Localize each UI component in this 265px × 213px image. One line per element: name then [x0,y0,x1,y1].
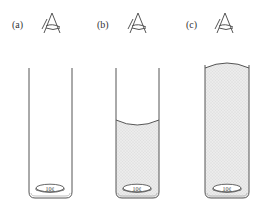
coin-label-b: 10¢ [133,186,142,192]
coin-label-a: 10¢ [46,186,55,192]
refraction-diagram: 10¢ 10¢ 10¢ [0,0,265,213]
water-c [205,63,249,198]
eye-icon [42,13,60,33]
eye-icon [128,13,146,33]
tube-b [116,68,159,198]
tube-a [29,68,72,198]
tube-c [205,63,249,198]
coin-b: 10¢ [123,184,151,192]
coin-c: 10¢ [213,184,241,192]
coin-label-c: 10¢ [223,186,232,192]
eye-icon [215,13,233,33]
coin-a: 10¢ [36,184,64,192]
